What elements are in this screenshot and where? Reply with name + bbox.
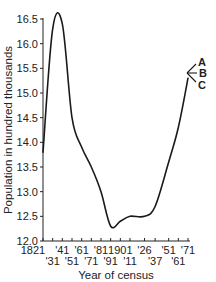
y-tick-label: 14.0 (17, 136, 38, 148)
y-tick-label: 16.5 (17, 13, 38, 25)
population-line (43, 13, 188, 228)
x-tick-label: '31 (45, 255, 59, 267)
projection-branches: A B C (187, 56, 207, 91)
y-tick-label: 15.5 (17, 62, 38, 74)
population-chart: 12.012.513.013.514.014.515.015.516.016.5… (0, 0, 216, 282)
x-tick-label: '71 (84, 255, 98, 267)
y-tick-label: 15.0 (17, 87, 38, 99)
x-tick-label: '11 (123, 255, 137, 267)
y-tick-label: 16.0 (17, 38, 38, 50)
x-tick-label: '91 (103, 255, 117, 267)
y-tick-label: 12.5 (17, 210, 38, 222)
label-b: B (199, 67, 207, 79)
x-tick-label: '37 (148, 255, 162, 267)
y-tick-label: 14.5 (17, 112, 38, 124)
y-axis-ticks: 12.012.513.013.514.014.515.015.516.016.5 (17, 13, 43, 247)
y-tick-label: 13.0 (17, 186, 38, 198)
x-tick-label: '51 (65, 255, 79, 267)
label-c: C (198, 79, 206, 91)
y-tick-label: 13.5 (17, 161, 38, 173)
y-axis-title: Population in hundred thousands (2, 46, 14, 214)
x-tick-label: 1821 (21, 244, 45, 256)
x-axis-ticks: 1821'41'61'811901'26'51'71'31'51'71'91'1… (21, 238, 195, 267)
x-tick-label: '61 (171, 255, 185, 267)
x-axis-title: Year of census (78, 269, 154, 281)
